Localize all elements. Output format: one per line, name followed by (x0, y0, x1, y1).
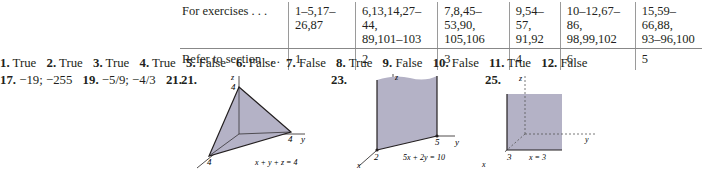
answer-item: 3. True (93, 56, 129, 70)
svg-text:2: 2 (374, 152, 379, 162)
svg-text:4: 4 (288, 134, 293, 144)
svg-text:z: z (230, 73, 235, 82)
answer-item: 19. −5/9; −4/3 (83, 73, 156, 87)
figure-25-label: 25. (485, 73, 501, 88)
svg-text:4: 4 (207, 157, 212, 167)
svg-text:4: 4 (231, 82, 236, 92)
answer-item: 12. False (541, 56, 587, 70)
answer-item: 2. True (47, 56, 83, 70)
svg-text:x + y + z = 4: x + y + z = 4 (254, 158, 297, 167)
svg-text:y: y (584, 135, 589, 144)
svg-text:y: y (454, 137, 459, 147)
answer-item: 17. −19; −255 (0, 73, 72, 87)
answers-true-false: 1. True 2. True 3. True 4. True 5. False… (0, 56, 594, 71)
svg-text:y: y (300, 134, 305, 144)
answer-item: 10. False (433, 56, 479, 70)
exercises-cell: 7,8,45–53,90,105,106 (438, 2, 510, 49)
figure-25-x-axis-label: x (480, 155, 510, 169)
exercises-row: For exercises . . . 1–5,17–26,87 6,13,14… (180, 2, 702, 49)
svg-text:x: x (481, 160, 486, 169)
figure-23-label: 23. (331, 73, 347, 88)
answer-item: 7. False (286, 56, 326, 70)
svg-text:x = 3: x = 3 (528, 153, 546, 162)
svg-text:z: z (518, 74, 523, 83)
exercises-cell: 15,59–66,88,93–96,100 (635, 2, 702, 49)
figure-25-plane: z y 3 x = 3 (505, 72, 600, 169)
figure-23-plane: z 5 y 2 x 5x + 2y = 10 (355, 72, 465, 169)
exercises-cell: 10–12,67–86,98,99,102 (560, 2, 635, 49)
row-header-exercises: For exercises . . . (180, 2, 288, 49)
exercises-cell: 6,13,14,27–44,89,101–103 (355, 2, 437, 49)
answer-item: 6. False (236, 56, 276, 70)
figure-21-plane: z 4 4 y 4 x + y + z = 4 (195, 72, 325, 169)
answer-item: 1. True (0, 56, 36, 70)
answers-numeric: 17. −19; −255 19. −5/9; −4/3 21. (0, 73, 189, 88)
exercises-cell: 1–5,17–26,87 (288, 2, 355, 49)
answer-item: 8. True (336, 56, 372, 70)
answer-item: 9. False (383, 56, 423, 70)
exercises-cell: 9,54–57,91,92 (509, 2, 560, 49)
section-cell: 5 (635, 49, 702, 71)
answer-item: 5. False (186, 56, 226, 70)
answer-item: 11. True (489, 56, 531, 70)
svg-text:5x + 2y = 10: 5x + 2y = 10 (403, 153, 445, 162)
svg-text:5: 5 (435, 137, 440, 147)
answer-item: 21. (166, 73, 182, 87)
svg-text:x: x (356, 161, 361, 169)
figure-21-label: 21. (181, 73, 197, 88)
answer-item: 4. True (140, 56, 176, 70)
